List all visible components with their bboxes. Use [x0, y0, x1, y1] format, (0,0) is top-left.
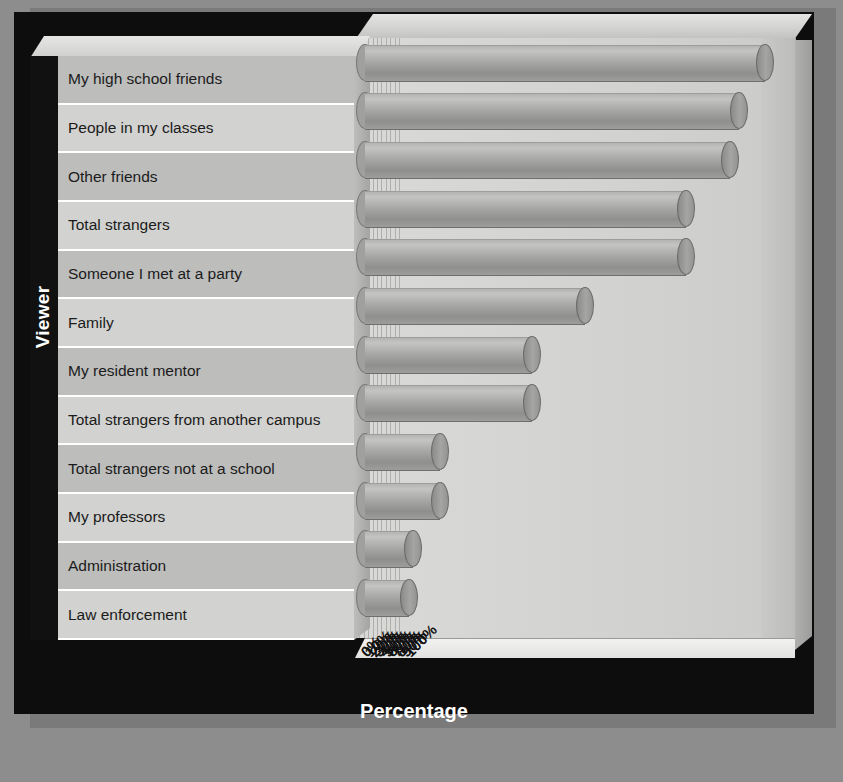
bar	[365, 288, 585, 323]
category-label-row: My high school friends	[58, 56, 354, 105]
bar	[365, 434, 440, 469]
bar-row	[355, 427, 815, 476]
bar	[365, 483, 440, 518]
bar	[365, 385, 532, 420]
category-label-row: My resident mentor	[58, 348, 354, 397]
bar-body	[365, 385, 532, 422]
bar-end-cap	[677, 190, 695, 227]
bar-end-cap	[523, 384, 541, 421]
bar-row	[355, 330, 815, 379]
bar	[365, 93, 739, 128]
category-label-row: Total strangers	[58, 202, 354, 251]
bar	[365, 580, 409, 615]
x-axis-title: Percentage	[14, 700, 814, 723]
bar-body	[365, 191, 686, 228]
bar	[365, 337, 532, 372]
bar-row	[355, 379, 815, 428]
category-label-row: Administration	[58, 543, 354, 592]
category-label: Someone I met at a party	[68, 265, 242, 283]
bar-row	[355, 476, 815, 525]
category-label-row: Law enforcement	[58, 591, 354, 640]
y-axis-title: Viewer	[32, 252, 54, 382]
category-label-row: Someone I met at a party	[58, 251, 354, 300]
category-label: Total strangers from another campus	[68, 411, 320, 429]
bar-body	[365, 288, 585, 325]
chart-figure: Viewer My high school friendsPeople in m…	[0, 0, 843, 782]
category-label: My high school friends	[68, 70, 222, 88]
bar-end-cap	[404, 530, 422, 567]
category-label-row: My professors	[58, 494, 354, 543]
bar-end-cap	[721, 141, 739, 178]
bar-end-cap	[730, 92, 748, 129]
bar-end-cap	[576, 287, 594, 324]
category-label: Administration	[68, 557, 166, 575]
bar	[365, 45, 765, 80]
bar-body	[365, 239, 686, 276]
bar-body	[365, 483, 440, 520]
category-label: Total strangers not at a school	[68, 460, 275, 478]
bar-row	[355, 281, 815, 330]
bar-body	[365, 434, 440, 471]
category-label-row: Family	[58, 299, 354, 348]
bar-row	[355, 233, 815, 282]
bar-end-cap	[756, 44, 774, 81]
bar-body	[365, 45, 765, 82]
bar-end-cap	[400, 579, 418, 616]
bar-row	[355, 38, 815, 87]
category-label: People in my classes	[68, 119, 214, 137]
category-panel: Viewer My high school friendsPeople in m…	[30, 36, 370, 640]
category-label-row: Other friends	[58, 153, 354, 202]
bar-body	[365, 93, 739, 130]
bar-row	[355, 135, 815, 184]
bar	[365, 239, 686, 274]
bar-row	[355, 87, 815, 136]
bar-row	[355, 184, 815, 233]
category-label: Total strangers	[68, 216, 170, 234]
bar	[365, 531, 413, 566]
bar	[365, 142, 730, 177]
category-label-list: My high school friendsPeople in my class…	[58, 56, 354, 640]
bar-series	[355, 38, 815, 638]
category-label: Law enforcement	[68, 606, 187, 624]
x-axis-tick-labels: 0%10%20%30%40%50%60%70%80%90%100%	[355, 648, 815, 694]
category-label-row: People in my classes	[58, 105, 354, 154]
category-label: My resident mentor	[68, 362, 201, 380]
category-panel-top	[30, 36, 370, 58]
category-label-row: Total strangers not at a school	[58, 445, 354, 494]
bar-body	[365, 142, 730, 179]
category-label: Family	[68, 314, 114, 332]
plot-wall-top	[355, 14, 812, 40]
category-label: My professors	[68, 508, 165, 526]
category-label-row: Total strangers from another campus	[58, 397, 354, 446]
bar-end-cap	[431, 433, 449, 470]
bar-row	[355, 525, 815, 574]
bar-row	[355, 573, 815, 622]
bar	[365, 191, 686, 226]
y-axis-title-strip: Viewer	[30, 56, 58, 640]
bar-body	[365, 337, 532, 374]
bar-end-cap	[523, 336, 541, 373]
bar-end-cap	[677, 238, 695, 275]
bar-end-cap	[431, 482, 449, 519]
category-label: Other friends	[68, 168, 158, 186]
